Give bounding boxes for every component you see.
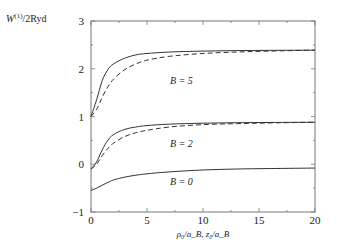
line-chart: W(1)/2Ryd −1 0 1 2 3 0 5 10 15 20 ρ₀/a_B… [0, 0, 337, 246]
x-tick-label: 5 [144, 214, 150, 226]
y-axis-label-rest: /2Ryd [23, 13, 47, 24]
y-tick-labels: −1 0 1 2 3 [72, 15, 84, 218]
annotation-b2: B = 2 [170, 138, 193, 149]
series-line [91, 168, 315, 190]
y-tick-label: 3 [79, 15, 85, 27]
y-tick-label: 2 [79, 63, 85, 75]
annotation-b5: B = 5 [170, 75, 193, 86]
x-tick-label: 0 [88, 214, 94, 226]
series-line [91, 50, 315, 116]
data-series [91, 50, 315, 190]
annotation-b0: B = 0 [170, 176, 193, 187]
x-tick-label: 15 [254, 214, 266, 226]
y-axis-label: W(1)/2Ryd [6, 12, 47, 24]
x-tick-label: 20 [310, 214, 322, 226]
series-line [91, 50, 315, 116]
x-tick-label: 10 [198, 214, 210, 226]
y-tick-label: −1 [72, 206, 84, 218]
axis-ticks [91, 21, 315, 212]
plot-frame [91, 21, 315, 212]
y-tick-label: 1 [79, 111, 85, 123]
y-tick-label: 0 [79, 158, 85, 170]
series-line [91, 122, 315, 169]
x-axis-label: ρ₀/a_B, z₀/a_B [176, 229, 230, 239]
x-tick-labels: 0 5 10 15 20 [88, 214, 321, 226]
